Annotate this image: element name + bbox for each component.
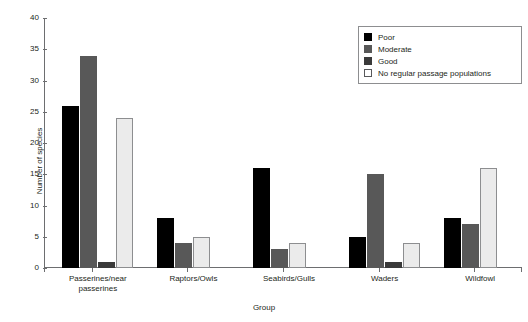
y-tick-label: 30 <box>30 77 39 85</box>
x-tick-mark <box>521 268 522 272</box>
x-tick-mark <box>187 268 188 272</box>
x-tick-label: Passerines/near passerines <box>52 274 144 294</box>
x-tick-label: Seabirds/Gulls <box>243 274 335 284</box>
bar-no-regular-passage-populations <box>289 243 306 268</box>
bar-no-regular-passage-populations <box>403 243 420 268</box>
y-tick-mark <box>43 49 47 50</box>
legend-swatch-icon <box>364 45 372 53</box>
x-tick-mark <box>92 268 93 272</box>
bar-good <box>98 262 115 268</box>
y-tick-label: 15 <box>30 170 39 178</box>
legend-label: Poor <box>378 33 395 42</box>
legend-label: No regular passage populations <box>378 69 491 78</box>
y-tick-label: 10 <box>30 202 39 210</box>
bar-moderate <box>367 174 384 268</box>
legend: PoorModerateGoodNo regular passage popul… <box>358 26 522 84</box>
x-tick-mark <box>379 268 380 272</box>
bar-moderate <box>175 243 192 268</box>
legend-swatch-icon <box>364 69 372 77</box>
bar-no-regular-passage-populations <box>480 168 497 268</box>
bar-chart: Number of species 0510152025303540 Passe… <box>0 0 528 322</box>
x-tick-mark <box>474 268 475 272</box>
x-axis-title: Group <box>0 303 528 312</box>
x-tick-label: Wildfowl <box>434 274 526 284</box>
bar-no-regular-passage-populations <box>193 237 210 268</box>
bar-poor <box>253 168 270 268</box>
y-tick-label: 25 <box>30 108 39 116</box>
legend-item[interactable]: Moderate <box>364 43 516 55</box>
x-tick-mark <box>283 268 284 272</box>
bar-group: Raptors/Owls <box>157 18 229 268</box>
legend-item[interactable]: Poor <box>364 31 516 43</box>
y-tick-mark <box>43 206 47 207</box>
bar-poor <box>157 218 174 268</box>
y-tick-mark <box>43 237 47 238</box>
bar-moderate <box>462 224 479 268</box>
y-tick-mark <box>43 174 47 175</box>
legend-label: Good <box>378 57 398 66</box>
y-tick-mark <box>43 112 47 113</box>
bar-group: Passerines/near passerines <box>62 18 134 268</box>
y-tick-label: 20 <box>30 139 39 147</box>
y-tick-mark <box>43 18 47 19</box>
bar-good <box>385 262 402 268</box>
y-tick-mark <box>43 143 47 144</box>
bar-poor <box>349 237 366 268</box>
bar-poor <box>444 218 461 268</box>
y-tick-mark <box>43 81 47 82</box>
bar-group-bars <box>253 18 325 268</box>
y-tick-label: 35 <box>30 45 39 53</box>
bar-poor <box>62 106 79 269</box>
y-tick-label: 0 <box>35 264 39 272</box>
legend-label: Moderate <box>378 45 412 54</box>
legend-swatch-icon <box>364 33 372 41</box>
bar-group: Seabirds/Gulls <box>253 18 325 268</box>
bar-moderate <box>80 56 97 269</box>
y-tick-label: 40 <box>30 14 39 22</box>
bar-moderate <box>271 249 288 268</box>
x-tick-label: Raptors/Owls <box>147 274 239 284</box>
legend-item[interactable]: No regular passage populations <box>364 67 516 79</box>
x-tick-mark <box>44 268 45 272</box>
bar-no-regular-passage-populations <box>116 118 133 268</box>
legend-item[interactable]: Good <box>364 55 516 67</box>
x-tick-label: Waders <box>339 274 431 284</box>
bar-group-bars <box>62 18 134 268</box>
y-tick-label: 5 <box>35 233 39 241</box>
legend-swatch-icon <box>364 57 372 65</box>
bar-group-bars <box>157 18 229 268</box>
